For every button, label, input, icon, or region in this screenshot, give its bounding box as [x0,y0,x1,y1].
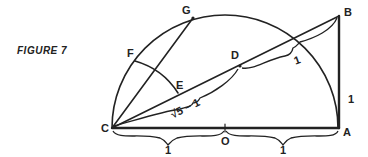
label-point-E: E [176,80,183,91]
label-point-B: B [344,7,352,18]
label-point-D: D [231,50,239,61]
geometry-diagram [0,0,368,157]
label-point-A: A [343,127,351,138]
measure-AB: 1 [348,94,354,105]
brace-DB [242,18,337,68]
brace-OA [226,131,338,145]
measure-OA: 1 [280,145,286,156]
label-point-C: C [101,123,109,134]
segment-CB [112,16,339,128]
label-point-G: G [182,5,191,16]
measure-CO: 1 [165,145,171,156]
label-point-F: F [127,48,134,59]
brace-CO [113,131,224,145]
label-point-O: O [221,136,230,147]
